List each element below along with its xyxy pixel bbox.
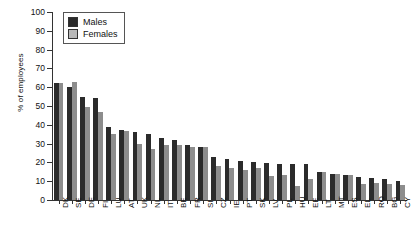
x-tick-label-lt: LT: [325, 199, 333, 208]
bar-group: [185, 12, 195, 200]
y-tick: [47, 200, 52, 201]
bar-females-at: [124, 131, 129, 200]
x-tick-label-el: EL: [364, 198, 372, 208]
x-tick: [400, 200, 401, 204]
x-tick: [361, 200, 362, 204]
x-tick-label-cz: CZ: [220, 197, 228, 208]
y-tick-label: 70: [36, 64, 45, 73]
bar-females-lt: [322, 172, 327, 200]
y-tick-label: 80: [36, 45, 45, 54]
x-tick: [177, 200, 178, 204]
bar-females-de: [85, 107, 90, 200]
bar-females-pl: [282, 175, 287, 200]
bar-group: [356, 12, 366, 200]
y-tick: [47, 68, 52, 69]
x-tick: [256, 200, 257, 204]
bar-females-fr: [190, 147, 195, 200]
y-tick: [47, 125, 52, 126]
bar-group: [264, 12, 274, 200]
bar-group: [290, 12, 300, 200]
x-tick-label-ro: RO: [378, 196, 386, 208]
y-axis-title: % of employees: [16, 23, 25, 143]
y-tick: [47, 87, 52, 88]
x-tick: [269, 200, 270, 204]
bar-group: [198, 12, 208, 200]
x-tick-label-pl: PL: [286, 198, 294, 208]
x-tick-label-mt: MT: [338, 196, 346, 208]
x-tick: [111, 200, 112, 204]
y-tick-label: 40: [36, 121, 45, 130]
x-tick-label-dk: DK: [62, 197, 70, 208]
x-tick-label-lu: LU: [115, 198, 123, 208]
bar-females-pt: [243, 170, 248, 200]
x-tick-label-it: IT: [167, 201, 175, 208]
bar-group: [238, 12, 248, 200]
bar-group: [277, 12, 287, 200]
y-tick: [47, 106, 52, 107]
x-tick: [137, 200, 138, 204]
x-tick-label-ee: EE: [312, 197, 320, 208]
x-tick: [216, 200, 217, 204]
x-tick-label-hu: HU: [299, 196, 307, 208]
bar-group: [133, 12, 143, 200]
y-tick: [47, 144, 52, 145]
legend-item-females: Females: [68, 28, 118, 40]
x-tick: [72, 200, 73, 204]
y-tick-label: 10: [36, 177, 45, 186]
x-tick: [282, 200, 283, 204]
x-tick: [85, 200, 86, 204]
y-tick-label: 50: [36, 102, 45, 111]
bar-females-dk: [59, 83, 64, 200]
bar-females-se: [72, 82, 77, 200]
x-tick-label-fi: FI: [102, 201, 110, 208]
x-tick-label-cy: CY: [404, 197, 412, 208]
x-tick-label-uk: UK: [141, 197, 149, 208]
y-tick: [47, 12, 52, 13]
y-tick: [47, 181, 52, 182]
bar-females-sk: [256, 168, 261, 200]
x-tick-label-fr: FR: [194, 197, 202, 208]
x-tick: [387, 200, 388, 204]
x-tick-label-be: BE: [180, 197, 188, 208]
bar-females-cz: [216, 166, 221, 200]
y-tick: [47, 50, 52, 51]
bar-group: [146, 12, 156, 200]
x-tick: [59, 200, 60, 204]
bar-group: [251, 12, 261, 200]
bar-group: [343, 12, 353, 200]
x-tick: [295, 200, 296, 204]
legend-swatch-females-icon: [68, 29, 78, 39]
bar-group: [304, 12, 314, 200]
y-tick-label: 90: [36, 27, 45, 36]
y-tick-label: 20: [36, 158, 45, 167]
y-tick: [47, 162, 52, 163]
bar-females-es: [348, 175, 353, 200]
legend-label-females: Females: [83, 30, 118, 39]
x-tick-label-pt: PT: [246, 198, 254, 208]
x-tick: [335, 200, 336, 204]
x-tick-label-de: DE: [88, 197, 96, 208]
bar-females-be: [177, 145, 182, 200]
bar-group: [330, 12, 340, 200]
x-tick-label-se: SE: [75, 197, 83, 208]
bar-females-lv: [269, 176, 274, 200]
bar-group: [54, 12, 64, 200]
x-tick-label-si: SI: [207, 200, 215, 208]
bar-females-nl: [151, 149, 156, 200]
bar-females-it: [164, 145, 169, 200]
x-tick: [151, 200, 152, 204]
bar-group: [172, 12, 182, 200]
x-tick-label-bg: BG: [391, 196, 399, 208]
x-tick-label-ie: IE: [233, 200, 241, 208]
bar-group: [382, 12, 392, 200]
legend-item-males: Males: [68, 16, 118, 28]
x-tick: [322, 200, 323, 204]
x-tick-label-lv: LV: [272, 199, 280, 208]
bar-group: [225, 12, 235, 200]
x-tick-label-nl: NL: [154, 198, 162, 208]
x-tick-label-es: ES: [351, 197, 359, 208]
legend-swatch-males-icon: [68, 17, 78, 27]
x-tick: [124, 200, 125, 204]
y-tick: [47, 31, 52, 32]
x-tick: [348, 200, 349, 204]
